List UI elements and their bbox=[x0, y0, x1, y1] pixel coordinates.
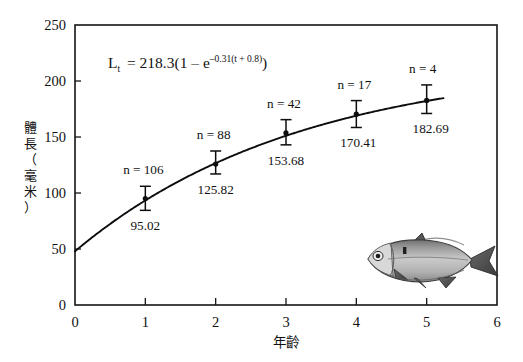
data-point bbox=[424, 98, 429, 103]
sample-size-label: n = 106 bbox=[123, 162, 164, 177]
x-tick-label: 6 bbox=[493, 314, 500, 330]
sample-size-label: n = 88 bbox=[197, 127, 231, 142]
equation-annotation: Lt = 218.3(1 – e–0.31(t + 0.8)) bbox=[108, 54, 267, 74]
data-point bbox=[354, 112, 359, 117]
value-label: 170.41 bbox=[340, 135, 376, 150]
y-tick-label: 250 bbox=[44, 17, 66, 33]
sample-size-label: n = 17 bbox=[337, 77, 371, 92]
sample-size-label: n = 42 bbox=[267, 96, 301, 111]
data-point bbox=[213, 161, 218, 166]
y-axis-title: 體長（毫米） bbox=[24, 120, 37, 215]
fish-illustration bbox=[368, 233, 498, 288]
y-axis-title-char: ） bbox=[24, 200, 37, 215]
value-label: 95.02 bbox=[130, 218, 160, 233]
growth-curve-chart: 050100150200250 0123456 bbox=[0, 0, 523, 362]
y-tick-label: 100 bbox=[44, 185, 66, 201]
fish-pupil bbox=[376, 254, 381, 259]
y-axis-ticks bbox=[75, 81, 81, 249]
value-label: 153.68 bbox=[268, 153, 305, 168]
x-tick-label: 2 bbox=[212, 314, 219, 330]
y-axis-title-char: 米 bbox=[24, 184, 37, 199]
y-tick-label: 50 bbox=[52, 241, 67, 257]
fish-anal-fin bbox=[438, 277, 456, 288]
y-axis-title-char: 毫 bbox=[24, 168, 37, 183]
chart-figure: 050100150200250 0123456 bbox=[0, 0, 523, 362]
x-axis-ticks bbox=[145, 298, 426, 305]
y-axis-tick-labels: 050100150200250 bbox=[44, 17, 66, 313]
y-tick-label: 150 bbox=[44, 129, 66, 145]
x-tick-label: 5 bbox=[423, 314, 430, 330]
x-tick-label: 4 bbox=[353, 314, 361, 330]
y-axis-title-char: 體 bbox=[24, 120, 37, 135]
x-tick-label: 3 bbox=[282, 314, 289, 330]
fish-tail-fin bbox=[470, 246, 498, 276]
x-axis-title: 年齡 bbox=[273, 334, 299, 350]
sample-size-label: n = 4 bbox=[409, 61, 437, 76]
data-point bbox=[283, 130, 288, 135]
y-tick-label: 200 bbox=[44, 73, 66, 89]
value-label: 182.69 bbox=[413, 121, 450, 136]
value-label: 125.82 bbox=[198, 182, 234, 197]
x-axis-tick-labels: 0123456 bbox=[71, 314, 500, 330]
y-tick-label: 0 bbox=[59, 297, 66, 313]
value-labels-group: 95.02125.82153.68170.41182.69 bbox=[130, 121, 449, 233]
x-tick-label: 0 bbox=[71, 314, 78, 330]
data-point bbox=[143, 196, 148, 201]
y-axis-title-char: 長 bbox=[24, 136, 37, 151]
x-tick-label: 1 bbox=[142, 314, 149, 330]
y-axis-title-char: （ bbox=[24, 152, 37, 167]
fish-shoulder-spot bbox=[403, 247, 406, 254]
